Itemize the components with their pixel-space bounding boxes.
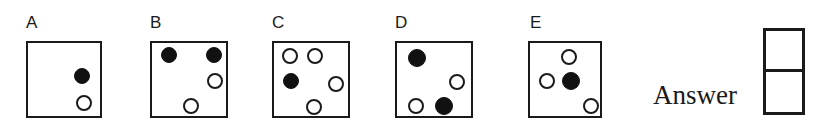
filled-circle-icon	[74, 68, 90, 84]
answer-label: Answer	[653, 82, 737, 109]
open-circle-icon	[539, 73, 555, 89]
filled-circle-icon	[283, 73, 299, 89]
option-label-c: C	[272, 14, 285, 31]
option-box-e[interactable]	[528, 41, 602, 118]
option-box-d[interactable]	[395, 41, 473, 118]
open-circle-icon	[328, 76, 344, 92]
filled-circle-icon	[161, 47, 177, 63]
open-circle-icon	[307, 48, 323, 64]
filled-circle-icon	[408, 49, 426, 67]
open-circle-icon	[449, 74, 465, 90]
filled-circle-icon	[435, 97, 453, 115]
figure-canvas: ABCDEAnswer	[0, 0, 824, 130]
open-circle-icon	[76, 95, 92, 111]
answer-box[interactable]	[763, 28, 805, 115]
filled-circle-icon	[562, 72, 580, 90]
filled-circle-icon	[206, 47, 222, 63]
open-circle-icon	[583, 98, 599, 114]
open-circle-icon	[408, 98, 424, 114]
open-circle-icon	[207, 73, 223, 89]
open-circle-icon	[183, 98, 199, 114]
option-box-a[interactable]	[26, 41, 102, 118]
open-circle-icon	[306, 99, 322, 115]
answer-cell-top[interactable]	[766, 31, 802, 72]
option-box-c[interactable]	[272, 41, 350, 118]
answer-cell-bottom[interactable]	[766, 72, 802, 113]
option-label-b: B	[150, 14, 162, 31]
option-label-a: A	[26, 14, 38, 31]
open-circle-icon	[561, 49, 577, 65]
option-box-b[interactable]	[150, 41, 228, 118]
option-label-d: D	[395, 14, 408, 31]
option-label-e: E	[530, 14, 542, 31]
option-d[interactable]: D	[0, 0, 824, 130]
open-circle-icon	[282, 48, 298, 64]
